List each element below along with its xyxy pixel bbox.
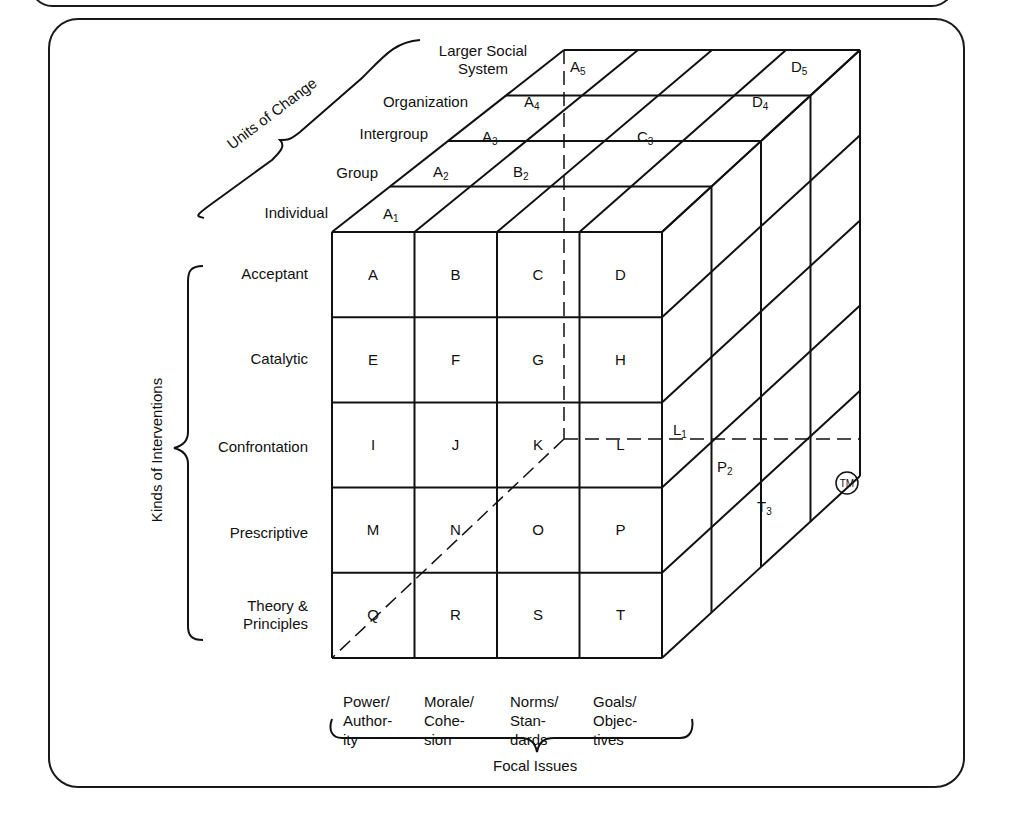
focal-column-power-authority: Power/Author-ity — [343, 692, 392, 749]
focal-issues-title: Focal Issues — [493, 757, 577, 775]
front-cell-a: A — [332, 266, 414, 283]
side-label-p2: P2 — [717, 458, 733, 481]
side-label-l1: L1 — [673, 421, 687, 444]
focal-column-morale-cohesion: Morale/Cohe-sion — [424, 692, 474, 749]
front-cell-q: Q — [332, 606, 414, 623]
front-cell-n: N — [415, 521, 497, 538]
intervention-label-catalytic: Catalytic — [180, 350, 308, 368]
front-cell-c: C — [497, 266, 579, 283]
larger-line-1: Larger Social — [428, 42, 538, 60]
top-label-a2: A2 — [433, 163, 449, 186]
top-label-a5: A5 — [570, 58, 586, 81]
top-label-a4: A4 — [524, 93, 540, 116]
kinds-of-interventions-title: Kinds of Interventions — [148, 378, 165, 522]
front-cell-t: T — [580, 606, 662, 623]
top-label-b2: B2 — [513, 163, 529, 186]
front-cell-d: D — [580, 266, 662, 283]
focal-column-goals-objectives: Goals/Objec-tives — [593, 692, 637, 749]
front-cell-o: O — [497, 521, 579, 538]
larger-line-2: System — [428, 60, 538, 78]
focal-column-norms-standards: Norms/Stan-dards — [510, 692, 558, 749]
trademark-text: TM — [840, 478, 854, 489]
intervention-label-acceptant: Acceptant — [180, 265, 308, 283]
side-label-t3: T3 — [757, 498, 772, 521]
front-cell-l: L — [580, 436, 662, 453]
unit-label-larger-social-system: Larger Social System — [428, 42, 538, 78]
front-cell-j: J — [415, 436, 497, 453]
unit-label-group: Group — [250, 164, 378, 182]
theory-line-1: Theory & — [180, 597, 308, 615]
unit-label-intergroup: Intergroup — [300, 125, 428, 143]
front-cell-r: R — [415, 606, 497, 623]
top-label-a1: A1 — [383, 205, 399, 228]
top-label-d4: D4 — [752, 93, 768, 116]
intervention-label-prescriptive: Prescriptive — [180, 524, 308, 542]
front-cell-i: I — [332, 436, 414, 453]
top-label-a3: A3 — [482, 128, 498, 151]
unit-label-organization: Organization — [340, 93, 468, 111]
intervention-label-confrontation: Confrontation — [180, 438, 308, 456]
front-cell-g: G — [497, 351, 579, 368]
theory-line-2: Principles — [180, 615, 308, 633]
top-label-c3: C3 — [637, 128, 653, 151]
unit-label-individual: Individual — [200, 204, 328, 222]
front-cell-s: S — [497, 606, 579, 623]
front-cell-m: M — [332, 521, 414, 538]
consulcube-diagram: TM Units of Change Kinds of Intervention… — [0, 0, 1011, 839]
front-cell-h: H — [580, 351, 662, 368]
front-cell-k: K — [497, 436, 579, 453]
front-cell-b: B — [415, 266, 497, 283]
intervention-label-theory-principles: Theory & Principles — [180, 597, 308, 633]
front-cell-e: E — [332, 351, 414, 368]
front-cell-f: F — [415, 351, 497, 368]
top-label-d5: D5 — [791, 58, 807, 81]
front-cell-p: P — [580, 521, 662, 538]
